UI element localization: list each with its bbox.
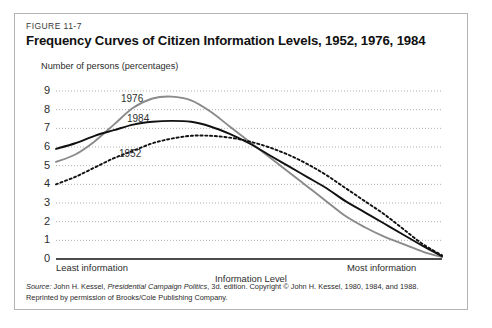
x-axis-caption-left: Least information <box>56 262 128 273</box>
source-label: Source: <box>26 282 51 291</box>
y-tick-label: 7 <box>36 121 50 133</box>
source-rest: , 3d. edition. Copyright © John H. Kesse… <box>207 282 418 291</box>
series-label-1952: 1952 <box>119 148 141 159</box>
source-author: John H. Kessel, <box>54 282 106 291</box>
source-work-title: Presidential Campaign Politics <box>107 282 207 291</box>
x-axis-caption-right: Most information <box>347 262 416 273</box>
y-tick-label: 2 <box>36 215 50 227</box>
y-tick-label: 6 <box>36 140 50 152</box>
y-tick-label: 3 <box>36 196 50 208</box>
gridlines-group <box>56 91 442 240</box>
y-tick-label: 0 <box>36 252 50 264</box>
y-tick-label: 5 <box>36 159 50 171</box>
figure-frame: FIGURE 11-7 Frequency Curves of Citizen … <box>14 13 468 310</box>
y-tick-label: 9 <box>36 84 50 96</box>
series-label-1984: 1984 <box>127 113 149 124</box>
source-note: Source: John H. Kessel, Presidential Cam… <box>26 282 456 303</box>
series-label-1976: 1976 <box>121 93 143 104</box>
y-tick-label: 1 <box>36 233 50 245</box>
source-permission: Reprinted by permission of Brooks/Cole P… <box>26 293 228 302</box>
series-curve-1976 <box>56 96 442 257</box>
y-tick-label: 8 <box>36 103 50 115</box>
series-group <box>56 96 442 257</box>
y-tick-label: 4 <box>36 177 50 189</box>
